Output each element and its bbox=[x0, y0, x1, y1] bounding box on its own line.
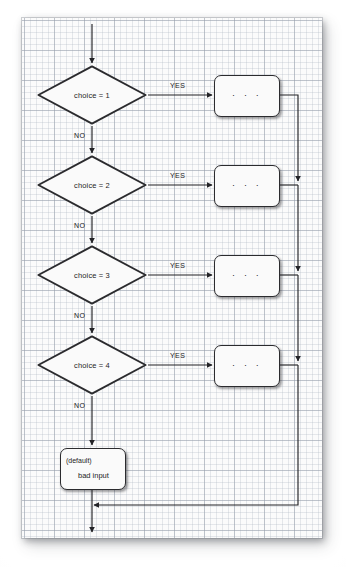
process-box-text: · · · bbox=[232, 181, 262, 190]
edge-label-no-1: NO bbox=[74, 132, 85, 139]
edge-label-yes-3: YES bbox=[170, 262, 185, 269]
wire-return-1 bbox=[278, 95, 298, 181]
edge-label-no-4: NO bbox=[74, 402, 85, 409]
decision-label: choice = 1 bbox=[36, 64, 148, 126]
process-box-text: · · · bbox=[232, 271, 262, 280]
default-box-line1: (default) bbox=[66, 457, 92, 464]
process-box-1[interactable]: · · · bbox=[214, 75, 280, 117]
decision-choice-1[interactable]: choice = 1 bbox=[36, 64, 148, 126]
decision-label: choice = 3 bbox=[36, 244, 148, 306]
graph-paper-sheet: choice = 1 choice = 2 choice = 3 choice … bbox=[22, 18, 322, 538]
decision-choice-3[interactable]: choice = 3 bbox=[36, 244, 148, 306]
process-box-text: · · · bbox=[232, 361, 262, 370]
process-box-3[interactable]: · · · bbox=[214, 255, 280, 297]
decision-choice-2[interactable]: choice = 2 bbox=[36, 154, 148, 216]
default-box-line2: bad input bbox=[78, 471, 109, 480]
edge-label-no-2: NO bbox=[74, 222, 85, 229]
edge-label-no-3: NO bbox=[74, 312, 85, 319]
process-box-4[interactable]: · · · bbox=[214, 345, 280, 387]
decision-label: choice = 2 bbox=[36, 154, 148, 216]
process-box-2[interactable]: · · · bbox=[214, 165, 280, 207]
default-box[interactable]: (default) bad input bbox=[60, 448, 126, 490]
process-box-text: · · · bbox=[232, 91, 262, 100]
edge-label-yes-1: YES bbox=[170, 82, 185, 89]
decision-label: choice = 4 bbox=[36, 334, 148, 396]
flowchart-canvas: choice = 1 choice = 2 choice = 3 choice … bbox=[0, 0, 346, 567]
sheet-inner: choice = 1 choice = 2 choice = 3 choice … bbox=[22, 18, 322, 538]
decision-choice-4[interactable]: choice = 4 bbox=[36, 334, 148, 396]
edge-label-yes-2: YES bbox=[170, 172, 185, 179]
edge-label-yes-4: YES bbox=[170, 352, 185, 359]
